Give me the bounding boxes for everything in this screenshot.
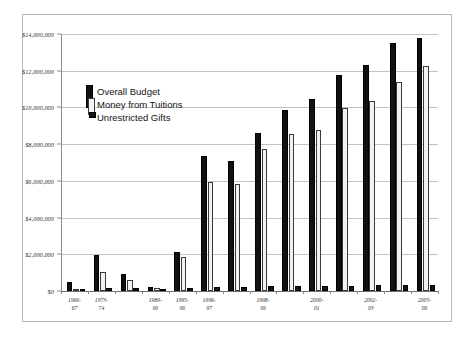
legend-label-money-from-tuitions: Money from Tuitions bbox=[97, 98, 183, 111]
bar-group bbox=[121, 34, 139, 291]
x-tick-mark bbox=[303, 291, 304, 294]
legend-labels: Overall Budget Money from Tuitions Unres… bbox=[97, 85, 183, 124]
bar-money-from-tuitions bbox=[235, 184, 241, 291]
chart-frame: $14,000,000$12,000,000$10,000,000$8,000,… bbox=[22, 14, 452, 322]
bar-money-from-tuitions bbox=[369, 101, 375, 291]
x-tick-label: 1973-74 bbox=[95, 297, 108, 312]
bar-group bbox=[174, 34, 192, 291]
x-tick-label: 1996-97 bbox=[203, 297, 216, 312]
bar-overall-budget bbox=[309, 99, 315, 291]
bar-money-from-tuitions bbox=[262, 149, 268, 291]
x-tick-mark bbox=[250, 291, 251, 294]
bar-money-from-tuitions bbox=[423, 66, 429, 291]
bar-overall-budget bbox=[390, 43, 396, 291]
bar-group bbox=[390, 34, 408, 291]
bar-series-container bbox=[61, 34, 438, 291]
bar-money-from-tuitions bbox=[316, 130, 322, 291]
x-tick-mark bbox=[88, 291, 89, 294]
bar-overall-budget bbox=[174, 252, 180, 291]
legend-label-unrestricted-gifts: Unrestricted Gifts bbox=[97, 111, 183, 124]
bar-unrestricted-gifts bbox=[295, 286, 301, 291]
bar-overall-budget bbox=[282, 110, 288, 291]
y-tick-label: $12,000,000 bbox=[22, 67, 54, 74]
y-tick-label: $4,000,000 bbox=[25, 214, 54, 221]
bar-overall-budget bbox=[148, 287, 154, 291]
bar-unrestricted-gifts bbox=[322, 286, 328, 291]
x-tick-mark bbox=[115, 291, 116, 294]
bar-overall-budget bbox=[201, 156, 207, 291]
bar-group bbox=[417, 34, 435, 291]
legend-label-overall-budget: Overall Budget bbox=[97, 85, 183, 98]
bar-group bbox=[148, 34, 166, 291]
bar-money-from-tuitions bbox=[127, 280, 133, 291]
y-tick-label: $14,000,000 bbox=[22, 31, 54, 38]
bar-unrestricted-gifts bbox=[214, 287, 220, 291]
y-tick-label: $6,000,000 bbox=[25, 177, 54, 184]
bar-overall-budget bbox=[363, 65, 369, 291]
x-tick-mark bbox=[330, 291, 331, 294]
x-tick-mark bbox=[196, 291, 197, 294]
y-tick-label: $10,000,000 bbox=[22, 104, 54, 111]
bar-money-from-tuitions bbox=[73, 289, 79, 291]
x-tick-mark bbox=[223, 291, 224, 294]
bar-group bbox=[228, 34, 246, 291]
plot-area: $14,000,000$12,000,000$10,000,000$8,000,… bbox=[61, 34, 438, 291]
legend-swatch-stack bbox=[86, 85, 95, 124]
y-tick-label: $8,000,000 bbox=[25, 141, 54, 148]
bar-unrestricted-gifts bbox=[403, 285, 409, 291]
x-tick-mark bbox=[276, 291, 277, 294]
x-tick-mark bbox=[142, 291, 143, 294]
legend-swatch-unrestricted-gifts bbox=[89, 112, 96, 118]
bar-group bbox=[282, 34, 300, 291]
x-tick-label: 2002-03 bbox=[364, 297, 377, 312]
bar-unrestricted-gifts bbox=[133, 288, 139, 291]
bar-group bbox=[255, 34, 273, 291]
bar-overall-budget bbox=[228, 161, 234, 291]
bar-group bbox=[336, 34, 354, 291]
bar-money-from-tuitions bbox=[208, 182, 214, 291]
x-tick-mark bbox=[411, 291, 412, 294]
bar-group bbox=[94, 34, 112, 291]
bar-overall-budget bbox=[336, 75, 342, 291]
bar-group bbox=[201, 34, 219, 291]
bar-unrestricted-gifts bbox=[187, 288, 193, 291]
bar-money-from-tuitions bbox=[289, 134, 295, 291]
bar-group bbox=[363, 34, 381, 291]
x-tick-mark bbox=[438, 291, 439, 294]
x-tick-mark bbox=[384, 291, 385, 294]
y-tick-label: $0 bbox=[48, 288, 54, 295]
bar-unrestricted-gifts bbox=[241, 287, 247, 291]
bar-overall-budget bbox=[121, 274, 127, 291]
x-tick-label: 1989-90 bbox=[149, 297, 162, 312]
x-tick-label: 1995-96 bbox=[176, 297, 189, 312]
y-tick-label: $2,000,000 bbox=[25, 251, 54, 258]
bar-unrestricted-gifts bbox=[268, 286, 274, 291]
bar-unrestricted-gifts bbox=[106, 288, 112, 291]
bar-overall-budget bbox=[255, 133, 261, 291]
bar-overall-budget bbox=[94, 255, 100, 291]
bar-money-from-tuitions bbox=[181, 257, 187, 291]
bar-overall-budget bbox=[417, 38, 423, 291]
x-tick-mark bbox=[169, 291, 170, 294]
bar-overall-budget bbox=[67, 282, 73, 291]
x-tick-label: 2005-06 bbox=[418, 297, 431, 312]
bar-money-from-tuitions bbox=[154, 288, 160, 291]
x-tick-mark bbox=[357, 291, 358, 294]
bar-unrestricted-gifts bbox=[160, 289, 166, 291]
bar-money-from-tuitions bbox=[100, 272, 106, 291]
bar-unrestricted-gifts bbox=[376, 285, 382, 291]
bar-money-from-tuitions bbox=[342, 108, 348, 291]
bar-group bbox=[309, 34, 327, 291]
x-tick-label: 1966-67 bbox=[68, 297, 81, 312]
bar-money-from-tuitions bbox=[396, 82, 402, 291]
bar-unrestricted-gifts bbox=[349, 286, 355, 292]
bar-unrestricted-gifts bbox=[80, 289, 86, 291]
bar-group bbox=[67, 34, 85, 291]
bar-unrestricted-gifts bbox=[430, 285, 436, 291]
x-tick-label: 1998-99 bbox=[256, 297, 269, 312]
x-tick-label: 2000-01 bbox=[310, 297, 323, 312]
x-tick-mark bbox=[61, 291, 62, 294]
